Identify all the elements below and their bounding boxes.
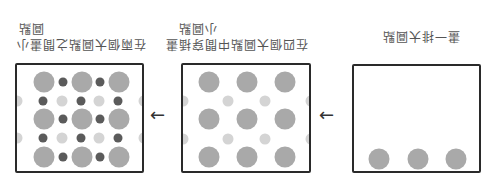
big-dot [72, 147, 93, 168]
dark-dot [39, 97, 48, 106]
big-dot [237, 147, 258, 168]
caption-step-1: 畫一排大圓點 [380, 28, 460, 44]
big-dot [237, 109, 258, 130]
light-dot [15, 133, 23, 144]
caption-step-3-line2: 圓點 [18, 20, 146, 36]
big-dot [446, 149, 467, 170]
big-dot [199, 72, 220, 93]
caption-step-3-line1: 在兩個大圓點之間畫小 [18, 36, 146, 52]
big-dot [237, 72, 258, 93]
light-dot [139, 133, 145, 144]
panel-step-3 [15, 63, 144, 173]
big-dot [275, 109, 296, 130]
light-dot [139, 96, 145, 107]
big-dot [72, 72, 93, 93]
big-dot [199, 147, 220, 168]
light-dot [260, 96, 271, 107]
caption-step-2-line2: 小圓點 [178, 20, 308, 36]
big-dot [369, 149, 390, 170]
big-dot [34, 72, 55, 93]
panel-step-1 [352, 64, 481, 173]
light-dot [57, 96, 68, 107]
caption-step-2: 在四個大圓點中間穿插畫 小圓點 [178, 20, 308, 52]
big-dot [34, 147, 55, 168]
caption-step-2-line1: 在四個大圓點中間穿插畫 [178, 36, 308, 52]
light-dot [306, 134, 312, 145]
dark-dot [77, 134, 86, 143]
light-dot [94, 133, 105, 144]
dark-dot [59, 78, 68, 87]
dark-dot [59, 115, 68, 124]
big-dot [199, 109, 220, 130]
big-dot [408, 149, 429, 170]
dark-dot [59, 153, 68, 162]
dark-dot [39, 134, 48, 143]
big-dot [275, 147, 296, 168]
light-dot [223, 96, 234, 107]
arrow-left-icon: ← [150, 106, 165, 124]
light-dot [57, 133, 68, 144]
dark-dot [77, 97, 86, 106]
dark-dot [114, 97, 123, 106]
light-dot [94, 96, 105, 107]
caption-step-3: 在兩個大圓點之間畫小 圓點 [18, 20, 146, 52]
light-dot [15, 96, 23, 107]
big-dot [109, 109, 130, 130]
light-dot [181, 134, 189, 145]
light-dot [223, 134, 234, 145]
big-dot [275, 72, 296, 93]
caption-step-1-line1: 畫一排大圓點 [380, 28, 460, 44]
dark-dot [96, 78, 105, 87]
big-dot [72, 109, 93, 130]
big-dot [34, 109, 55, 130]
dark-dot [114, 134, 123, 143]
arrow-left-icon: ← [319, 106, 334, 124]
panel-step-2 [181, 63, 311, 173]
light-dot [181, 96, 189, 107]
dark-dot [96, 153, 105, 162]
light-dot [306, 96, 312, 107]
dot-pattern-diagram: 在兩個大圓點之間畫小 圓點 在四個大圓點中間穿插畫 小圓點 畫一排大圓點 [0, 0, 496, 190]
big-dot [109, 147, 130, 168]
dark-dot [96, 115, 105, 124]
light-dot [260, 134, 271, 145]
big-dot [109, 72, 130, 93]
